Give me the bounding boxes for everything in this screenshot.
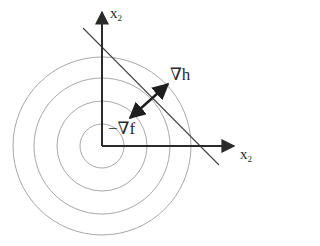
horizontal-axis-label: x2 [240, 147, 252, 164]
grad-h-label: ∇h [170, 66, 190, 83]
vertical-axis-label-main: x [110, 5, 118, 21]
vertical-axis-label-sub: 2 [118, 13, 123, 23]
gradient-double-arrow [130, 84, 168, 118]
neg-grad-f-label: −∇f [108, 120, 135, 137]
horizontal-axis-label-sub: 2 [248, 154, 253, 164]
constraint-line [83, 28, 219, 165]
vertical-axis-label: x2 [110, 6, 122, 23]
horizontal-axis-label-main: x [240, 146, 248, 162]
